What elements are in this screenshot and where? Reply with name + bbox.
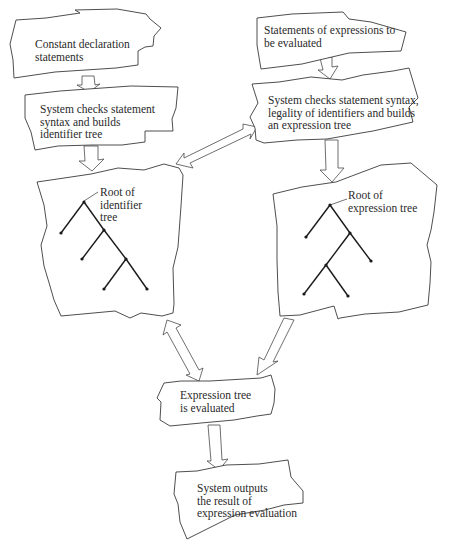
flowchart-canvas bbox=[0, 0, 450, 550]
arrow-statements-to-check bbox=[318, 57, 338, 79]
label-system-checks-expression: System checks statement syntax, legality… bbox=[268, 94, 419, 132]
label-system-outputs: System outputs the result of expression … bbox=[197, 482, 297, 520]
box-expression-tree bbox=[273, 163, 437, 319]
arrow-check-to-expression-tree bbox=[320, 140, 344, 182]
label-root-of-expression-tree: Root of expression tree bbox=[348, 189, 417, 214]
arrow-evaluate-to-output bbox=[207, 425, 228, 470]
label-root-of-identifier-tree: Root of identifier tree bbox=[100, 186, 142, 224]
label-statements-of-expressions: Statements of expressions to be evaluate… bbox=[264, 24, 395, 49]
double-arrow-identifier-to-check-expression bbox=[176, 124, 257, 168]
arrow-expression-tree-to-evaluate bbox=[257, 318, 294, 375]
label-system-checks-identifier: System checks statement syntax and build… bbox=[40, 103, 155, 141]
label-constant-declaration: Constant declaration statements bbox=[35, 38, 130, 63]
label-expression-evaluated: Expression tree is evaluated bbox=[180, 389, 251, 414]
arrow-check-to-identifier-tree bbox=[79, 146, 104, 171]
double-arrow-identifier-to-evaluate bbox=[163, 320, 203, 381]
